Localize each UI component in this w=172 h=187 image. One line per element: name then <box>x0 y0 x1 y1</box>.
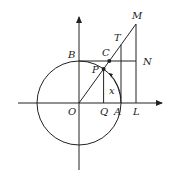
ray-om <box>79 24 136 103</box>
label-n: N <box>142 56 153 67</box>
label-c: C <box>102 47 110 58</box>
label-l: L <box>132 106 140 117</box>
label-t: T <box>114 32 122 43</box>
point-p <box>102 67 106 71</box>
unit-circle-diagram: M T B C N P x O Q A L <box>0 0 172 187</box>
label-a: A <box>113 106 121 117</box>
label-b: B <box>67 49 75 60</box>
label-p: P <box>91 64 99 75</box>
point-c <box>107 59 111 63</box>
label-o: O <box>68 106 76 117</box>
label-q: Q <box>100 106 108 117</box>
label-m: M <box>131 10 143 21</box>
label-x: x <box>109 85 115 96</box>
